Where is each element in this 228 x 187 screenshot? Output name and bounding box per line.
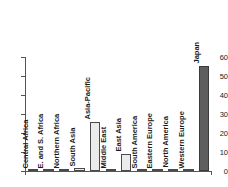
bar-category-label: East Asia [115,118,123,152]
bar [183,169,193,171]
bar [137,169,147,171]
plot-area: Central AfricaE. and S. AfricaNorthern A… [25,57,212,171]
bar-group: Japan [199,57,209,171]
bar-category-label: Eastern Europe [146,113,154,168]
x-axis-start-tick [25,171,26,175]
bar-group: Middle East [106,57,116,171]
bar [43,169,53,171]
bar [106,169,116,171]
bar-category-label: E. and S. Africa [37,113,45,168]
x-axis-line [25,171,212,172]
bar [152,169,162,171]
x-axis-end-tick [211,171,212,175]
bar-category-label: South America [130,116,138,169]
bar-category-label: Middle East [99,127,107,169]
bar-category-label: Asia-Pacific [84,77,92,120]
bar-group: Western Europe [183,57,193,171]
bar-category-label: Central Africa [21,119,29,168]
bar [74,168,84,171]
bar-chart: 60 50 40 30 20 10 0 Central AfricaE. and… [0,0,228,187]
bar-category-label: North America [162,116,170,167]
bar-category-label: Northern Africa [52,113,60,168]
bar [28,169,38,171]
bar-category-label: Western Europe [177,111,185,168]
bar [199,66,209,171]
bar-category-label: South Asia [68,127,76,166]
bar [168,169,178,171]
bar-category-label: Japan [193,42,201,64]
bar [59,169,69,171]
